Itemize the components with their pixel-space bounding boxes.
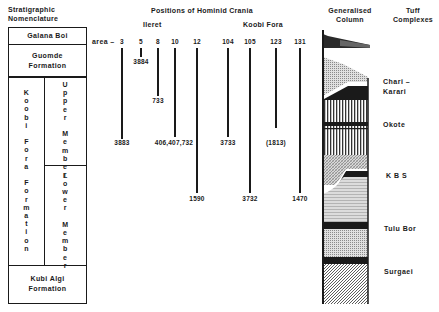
range-line-area-10 (174, 48, 176, 137)
vertical-letter: n (22, 245, 32, 253)
area-label: 123 (267, 38, 285, 45)
specimen-label: 406,407,732 (150, 139, 198, 146)
tuff-tulu-bor: Tulu Bor (384, 224, 416, 234)
specimen-label: 3732 (237, 195, 263, 202)
kubi-algi-formation-cell: Kubi Algi Formation (8, 265, 87, 304)
range-line-area-12 (196, 48, 198, 193)
vertical-letter: b (22, 114, 32, 122)
koobi-fora-heading: Koobi Fora (243, 20, 283, 29)
vertical-letter: b (60, 155, 70, 163)
vertical-letter (22, 171, 32, 179)
generalised-column-heading: Generalised Column (325, 6, 375, 24)
vertical-letter: o (22, 97, 32, 105)
vertical-letter: M (60, 130, 70, 138)
vertical-letter: m (22, 204, 32, 212)
vertical-letter: K (22, 89, 32, 97)
vertical-letter: a (22, 163, 32, 171)
vertical-letter: o (22, 146, 32, 154)
vertical-letter: r (22, 155, 32, 163)
specimen-label: 1590 (184, 195, 210, 202)
specimen-label: 3883 (109, 139, 135, 146)
vertical-letter: t (22, 220, 32, 228)
heading-line: Stratigraphic (8, 5, 58, 14)
cell-label: Formation (29, 284, 67, 294)
cell-label: Guomde (32, 51, 63, 61)
upper-member-cell: Upper Member (44, 76, 88, 166)
guomde-formation-cell: Guomde Formation (8, 44, 87, 78)
tuff-complexes-heading: Tuff Complexes (388, 6, 438, 24)
tuff-chari-karari: Chari – Karari (383, 77, 410, 97)
vertical-letter: o (22, 105, 32, 113)
lower-member-label: Lower Member (60, 172, 70, 270)
vertical-letter: p (60, 97, 70, 105)
heading-line: Column (325, 15, 375, 24)
vertical-letter: w (60, 188, 70, 196)
tuff-okote: Okote (383, 120, 405, 130)
heading-line: Generalised (325, 6, 375, 15)
vertical-letter: e (60, 106, 70, 114)
range-line-area-131 (299, 48, 301, 193)
heading-line: Tuff (388, 6, 438, 15)
vertical-letter: o (22, 237, 32, 245)
vertical-letter: m (60, 237, 70, 245)
vertical-letter: F (22, 138, 32, 146)
koobi-fora-formation-label: Koobi Fora Formation (22, 89, 32, 253)
range-line-area-8 (157, 48, 159, 96)
galana-boi-cell: Galana Boi (8, 27, 87, 45)
generalised-column-graphic (318, 26, 378, 308)
cell-label: Kubi Algi (30, 274, 64, 284)
range-line-area-123 (275, 48, 277, 128)
area-label: 10 (168, 38, 182, 45)
vertical-letter: i (22, 122, 32, 130)
vertical-letter (60, 122, 70, 130)
specimen-label: 1470 (287, 195, 313, 202)
vertical-letter: L (60, 172, 70, 180)
specimen-label: 3733 (215, 139, 241, 146)
heading-line: Complexes (388, 15, 438, 24)
area-label: 3 (116, 38, 128, 45)
area-label: 104 (219, 38, 237, 45)
heading-line: Nomenclature (8, 14, 58, 23)
specimen-label: 3884 (128, 58, 154, 65)
tuff-label: Chari – (383, 77, 410, 87)
cell-label: Formation (29, 61, 67, 71)
range-line-area-3 (121, 48, 123, 139)
specimen-label: (1813) (261, 139, 291, 146)
area-label: 105 (241, 38, 259, 45)
vertical-letter: e (60, 196, 70, 204)
vertical-letter: a (22, 212, 32, 220)
vertical-letter: b (60, 245, 70, 253)
range-line-area-5 (140, 48, 142, 57)
vertical-letter: M (60, 221, 70, 229)
vertical-letter: e (60, 254, 70, 262)
area-label: 5 (135, 38, 147, 45)
vertical-letter: r (60, 114, 70, 122)
tuff-label: Karari (383, 87, 410, 97)
vertical-letter: m (60, 147, 70, 155)
vertical-letter: i (22, 228, 32, 236)
tuff-surgaei: Surgaei (384, 267, 413, 277)
vertical-letter (22, 130, 32, 138)
vertical-letter: r (22, 196, 32, 204)
vertical-letter (60, 213, 70, 221)
ileret-heading: Ileret (143, 20, 162, 29)
range-line-area-105 (249, 48, 251, 193)
tuff-kbs: K B S (386, 171, 407, 181)
vertical-letter: p (60, 89, 70, 97)
area-prefix-label: area – (92, 38, 115, 45)
specimen-label: 733 (145, 97, 171, 104)
vertical-letter: r (60, 204, 70, 212)
area-label: 12 (190, 38, 204, 45)
vertical-letter: F (22, 179, 32, 187)
range-line-area-104 (227, 48, 229, 137)
lower-member-cell: Lower Member (44, 165, 88, 267)
stratigraphic-nomenclature-heading: Stratigraphic Nomenclature (8, 5, 58, 23)
vertical-letter: U (60, 81, 70, 89)
area-label: 131 (291, 38, 309, 45)
vertical-letter: e (60, 229, 70, 237)
koobi-fora-formation-cell: Koobi Fora Formation (8, 76, 45, 266)
cell-label: Galana Boi (27, 31, 68, 41)
vertical-letter: e (60, 138, 70, 146)
positions-heading: Positions of Hominid Crania (151, 6, 253, 15)
area-label: 8 (152, 38, 164, 45)
